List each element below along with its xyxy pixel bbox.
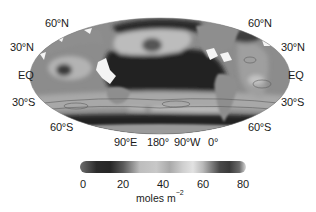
lat-label-right-30n: 30°N xyxy=(281,41,305,53)
lat-label-left-30n: 30°N xyxy=(10,41,34,53)
lon-label-90e: 90°E xyxy=(114,136,137,148)
lat-label-left-30s: 30°S xyxy=(12,96,35,108)
unit-base: moles m xyxy=(136,192,176,204)
lat-label-left-60s: 60°S xyxy=(50,121,73,133)
lat-label-left-eq: EQ xyxy=(18,69,34,81)
colorbar-unit-label: moles m−2 xyxy=(136,191,184,204)
colorbar-tick-0: 0 xyxy=(80,178,86,190)
lat-label-right-60n: 60°N xyxy=(248,17,272,29)
lat-label-left-60n: 60°N xyxy=(45,17,69,29)
lat-label-right-eq: EQ xyxy=(288,69,304,81)
lat-label-right-30s: 30°S xyxy=(281,96,304,108)
lon-label-0: 0° xyxy=(208,136,218,148)
lon-label-180: 180° xyxy=(147,136,169,148)
colorbar-tick-20: 20 xyxy=(117,178,129,190)
colorbar-tick-40: 40 xyxy=(157,178,169,190)
colorbar xyxy=(80,161,246,173)
colorbar-tick-60: 60 xyxy=(197,178,209,190)
unit-exponent: −2 xyxy=(176,189,184,196)
colorbar-tick-80: 80 xyxy=(237,178,249,190)
lat-label-right-60s: 60°S xyxy=(248,121,271,133)
lon-label-90w: 90°W xyxy=(174,136,200,148)
